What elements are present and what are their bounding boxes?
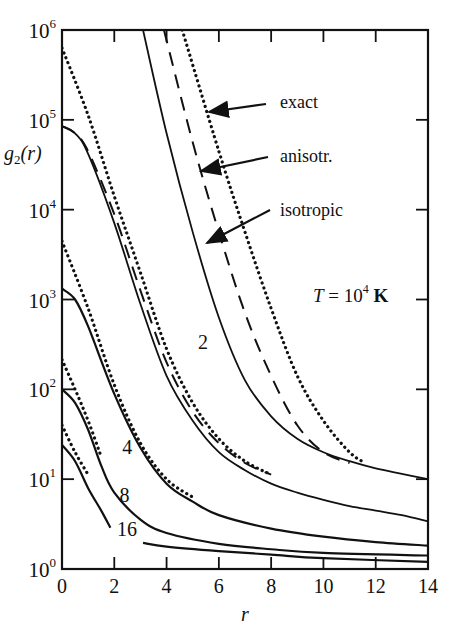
y-axis-label: g2(r) [4,142,42,167]
y-tick-label: 102 [29,375,57,402]
curve-exact-family-top [182,30,365,463]
y-tick-label: 104 [29,196,57,223]
x-tick-label: 14 [418,575,438,597]
family-label: 2 [198,331,208,353]
curve-isotropic-tail-family-16 [143,543,428,562]
x-axis-label: r [241,603,249,625]
y-tick-label: 106 [29,16,57,43]
family-label: 16 [117,518,137,540]
g2-vs-r-chart: 02468101214100101102103104105106rg2(r) 2… [0,0,454,627]
family-label: 8 [120,484,130,506]
legend-annotations: exactanisotr.isotropicT = 104 K [201,92,389,306]
y-tick-label: 100 [29,555,57,582]
x-tick-label: 12 [366,575,386,597]
x-tick-label: 8 [266,575,276,597]
y-tick-label: 105 [29,106,57,133]
x-tick-label: 10 [313,575,333,597]
family-label: 4 [122,436,132,458]
curve-isotropic-family-4 [62,289,428,546]
curve-exact-family-8 [62,360,101,457]
legend-label-exact: exact [280,92,318,112]
y-tick-label: 101 [29,465,57,492]
x-tick-label: 6 [214,575,224,597]
x-tick-label: 0 [57,575,67,597]
x-tick-label: 4 [162,575,172,597]
x-tick-label: 2 [109,575,119,597]
y-tick-label: 103 [29,286,57,313]
plot-axes: 02468101214100101102103104105106rg2(r) [4,16,438,625]
legend-label-isotropic: isotropic [280,200,343,220]
legend-arrow [209,104,266,112]
curve-exact-family-4 [62,241,193,497]
legend-arrow [207,210,270,243]
curve-exact-family-2 [62,48,271,475]
curve-isotropic-family-16 [62,445,110,528]
temperature-annotation: T = 104 K [313,282,389,306]
legend-label-anisotr: anisotr. [280,146,333,166]
curve-labels: 24816 [117,331,208,540]
legend-arrow [201,157,268,171]
